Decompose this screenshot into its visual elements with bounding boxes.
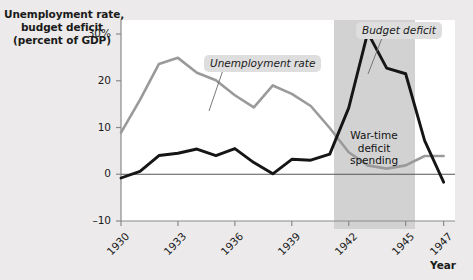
wartime-label-line-1: War-time (332, 129, 416, 142)
y-tick-label: 20 (77, 74, 111, 86)
y-tick-label: 30% (77, 27, 111, 39)
wartime-deficit-spending-label: War-time deficit spending (332, 129, 416, 167)
wartime-label-line-3: spending (332, 154, 416, 167)
axes-group (116, 20, 455, 226)
x-axis-name: Year (430, 259, 456, 271)
y-tick-label: 0 (77, 167, 111, 179)
chart-figure: Unemployment rate, budget deficit (perce… (0, 0, 473, 280)
budget-deficit-callout: Budget deficit (356, 22, 442, 39)
y-tick-label: –10 (77, 214, 111, 226)
y-tick-label: 10 (77, 121, 111, 133)
wartime-label-line-2: deficit (332, 142, 416, 155)
unemployment-rate-callout: Unemployment rate (204, 55, 321, 72)
